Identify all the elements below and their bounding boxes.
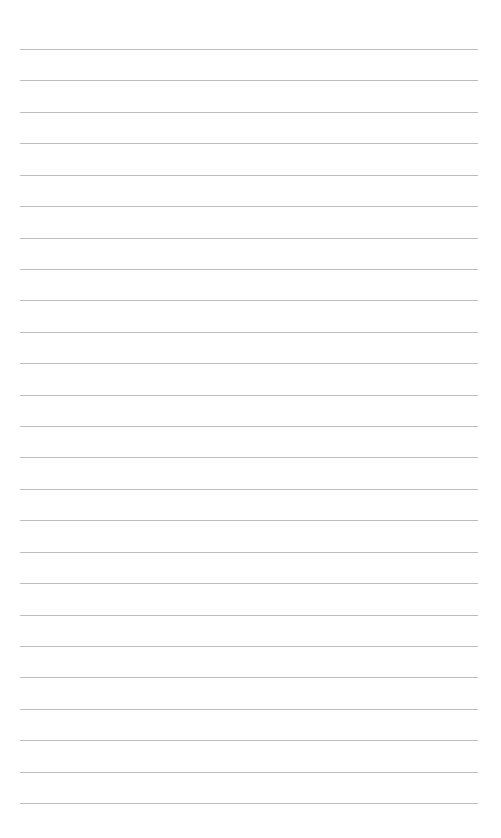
ruled-line bbox=[20, 49, 478, 50]
ruled-line bbox=[20, 740, 478, 741]
ruled-line bbox=[20, 709, 478, 710]
ruled-line bbox=[20, 552, 478, 553]
ruled-line bbox=[20, 269, 478, 270]
ruled-line bbox=[20, 457, 478, 458]
ruled-line bbox=[20, 112, 478, 113]
ruled-line bbox=[20, 772, 478, 773]
ruled-line bbox=[20, 238, 478, 239]
ruled-line bbox=[20, 175, 478, 176]
ruled-line bbox=[20, 583, 478, 584]
ruled-line bbox=[20, 363, 478, 364]
ruled-line bbox=[20, 395, 478, 396]
ruled-line bbox=[20, 646, 478, 647]
ruled-line bbox=[20, 520, 478, 521]
ruled-line bbox=[20, 677, 478, 678]
ruled-line bbox=[20, 489, 478, 490]
ruled-line bbox=[20, 143, 478, 144]
ruled-line bbox=[20, 300, 478, 301]
ruled-line bbox=[20, 426, 478, 427]
ruled-line bbox=[20, 206, 478, 207]
ruled-line bbox=[20, 80, 478, 81]
lined-paper-page bbox=[0, 0, 501, 838]
ruled-line bbox=[20, 615, 478, 616]
ruled-line bbox=[20, 332, 478, 333]
ruled-line bbox=[20, 803, 478, 804]
